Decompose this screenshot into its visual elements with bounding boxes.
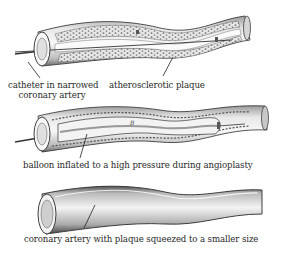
angioplasty-diagram: B: [0, 0, 281, 259]
panel-stage-3: [38, 186, 262, 234]
label-catheter-line2: coronary artery: [8, 90, 96, 100]
catheter-tip-marker: [136, 30, 139, 34]
label-plaque-squeezed: coronary artery with plaque squeezed to …: [24, 234, 258, 244]
artery-opening-inner: [37, 38, 47, 60]
balloon-marker-label: B: [129, 119, 135, 126]
catheter-balloon-marker: [215, 37, 218, 42]
label-atherosclerotic-plaque: atherosclerotic plaque: [109, 80, 205, 90]
artery-lumen: [41, 200, 53, 228]
balloon-end-marker: [217, 122, 220, 129]
panel-stage-1: [15, 16, 251, 78]
label-catheter-line1: catheter in narrowed: [8, 80, 96, 90]
artery-far-end: [244, 16, 251, 40]
panel-stage-2: B: [15, 106, 269, 158]
label-catheter: catheter in narrowed coronary artery: [8, 80, 96, 100]
artery-opening-inner: [37, 123, 47, 145]
pointer-plaque: [163, 57, 173, 76]
label-balloon-inflated: balloon inflated to a high pressure duri…: [23, 160, 253, 170]
artery-far-end: [262, 106, 269, 130]
